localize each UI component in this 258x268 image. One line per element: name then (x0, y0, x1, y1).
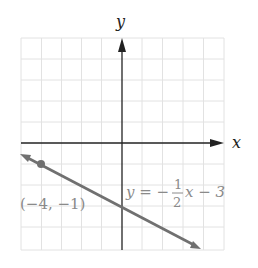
point-label: (−4, −1) (20, 195, 85, 213)
y-axis (118, 38, 126, 250)
equation-suffix: x − 3 (185, 183, 225, 201)
fraction-denominator: 2 (173, 195, 181, 210)
coordinate-plane: y x (−4, −1) y = − 1 2 x − 3 (0, 0, 258, 268)
fraction-numerator: 1 (174, 177, 182, 192)
equation-label: y = − 1 2 x − 3 (125, 177, 225, 210)
line-arrow-right-icon (190, 241, 201, 249)
y-axis-label: y (115, 12, 126, 31)
equation-prefix: y = − (125, 183, 169, 201)
x-axis-label: x (232, 133, 241, 152)
y-axis-arrow-icon (118, 38, 126, 52)
point-marker (37, 160, 45, 168)
line-arrow-left-icon (20, 154, 31, 162)
x-axis-arrow-icon (210, 139, 224, 147)
